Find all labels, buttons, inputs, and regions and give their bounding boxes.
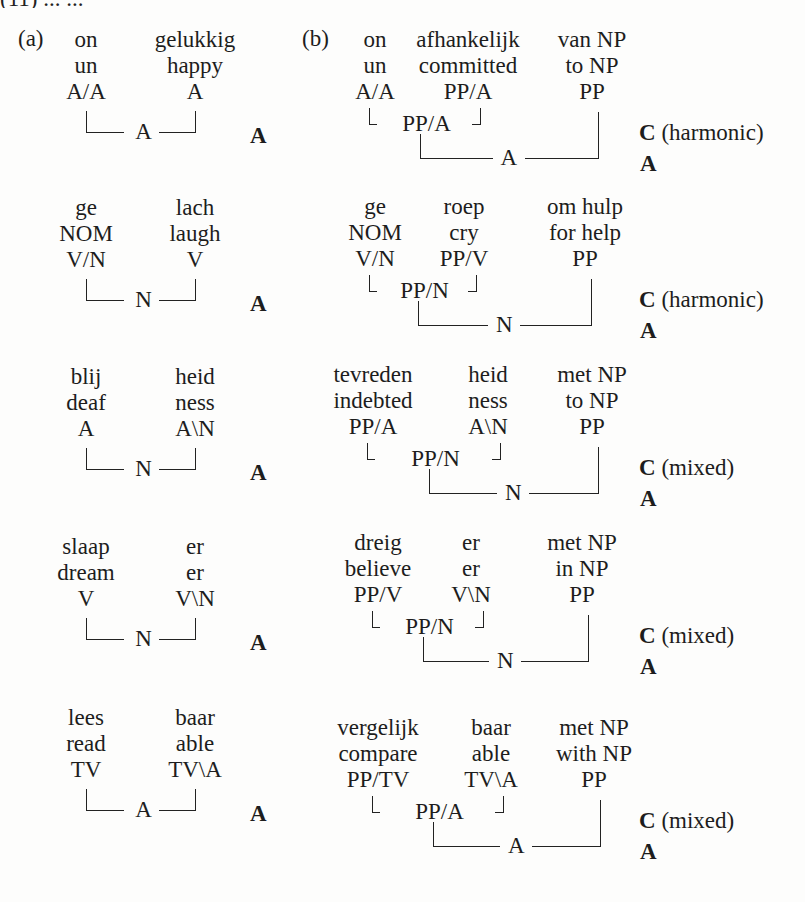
category: PP [572, 247, 598, 270]
bracket-right-vertical [195, 111, 196, 133]
result-category: N [135, 627, 152, 650]
bracket-right-vertical [195, 448, 196, 470]
composition-label: C (harmonic) [639, 121, 764, 144]
english-gloss: dream [57, 561, 114, 584]
bracket-right-vertical [195, 618, 196, 640]
composition-kind: (harmonic) [661, 287, 763, 312]
classification-label: A [640, 487, 657, 510]
english-gloss: un [364, 54, 387, 77]
category: V/N [355, 247, 395, 270]
intermediate-category: PP/N [411, 447, 460, 470]
result-category: A [135, 120, 152, 143]
outer-bracket-right-horizontal [529, 493, 598, 494]
bracket-left-vertical [86, 789, 87, 810]
inner-bracket-left-horizontal [369, 291, 377, 292]
outer-bracket-right-horizontal [521, 661, 588, 662]
composition-label: C (mixed) [639, 809, 734, 832]
dutch-morpheme: heid [175, 365, 215, 388]
english-gloss: committed [419, 54, 517, 77]
english-gloss: deaf [66, 391, 106, 414]
inner-bracket-right-horizontal [475, 627, 483, 628]
composition-kind: (mixed) [661, 808, 734, 833]
panel-a-label: (a) [18, 27, 44, 50]
classification-label: A [250, 802, 267, 825]
classification-label: A [640, 655, 657, 678]
english-gloss: NOM [348, 221, 402, 244]
bracket-left-vertical [86, 111, 87, 132]
category: A/A [66, 80, 106, 103]
category: TV [71, 758, 102, 781]
english-gloss: with NP [556, 742, 632, 765]
dutch-morpheme: er [462, 531, 480, 554]
bracket-right-horizontal [159, 810, 195, 811]
outer-bracket-right-horizontal [525, 158, 598, 159]
inner-bracket-left-vertical [367, 443, 368, 459]
inner-bracket-right-vertical [476, 275, 477, 292]
composition-type-letter: C [639, 808, 656, 833]
dutch-morpheme: on [364, 28, 387, 51]
english-gloss: for help [549, 221, 621, 244]
dutch-morpheme: met NP [559, 716, 629, 739]
category: A\N [175, 417, 215, 440]
outer-bracket-left-vertical [418, 301, 419, 325]
outer-bracket-left-vertical [420, 134, 421, 158]
outer-bracket-left-horizontal [433, 846, 501, 847]
outer-bracket-right-horizontal [532, 846, 600, 847]
category: A/A [355, 80, 395, 103]
outer-bracket-left-horizontal [418, 325, 489, 326]
result-category: N [135, 457, 152, 480]
dutch-morpheme: blij [71, 365, 102, 388]
english-gloss: er [186, 561, 204, 584]
category: TV\A [464, 768, 518, 791]
outer-bracket-left-vertical [423, 637, 424, 661]
bracket-right-vertical [195, 789, 196, 811]
dutch-morpheme: slaap [62, 535, 109, 558]
english-gloss: happy [167, 54, 223, 77]
composition-kind: (harmonic) [661, 120, 763, 145]
english-gloss: to NP [565, 54, 618, 77]
category: V\N [175, 587, 215, 610]
composition-label: C (mixed) [639, 624, 734, 647]
category: PP/A [349, 415, 398, 438]
inner-bracket-left-horizontal [372, 812, 380, 813]
clipped-previous-line: (11) ... ... [0, 0, 805, 8]
inner-bracket-left-horizontal [369, 124, 377, 125]
category: PP [569, 583, 595, 606]
bracket-left-horizontal [86, 810, 124, 811]
outer-bracket-left-horizontal [423, 661, 490, 662]
english-gloss: NOM [59, 222, 113, 245]
result-category: A [500, 146, 517, 169]
category: PP/TV [347, 768, 410, 791]
dutch-morpheme: gelukkig [155, 28, 236, 51]
bracket-right-horizontal [159, 132, 195, 133]
outer-bracket-left-vertical [429, 469, 430, 493]
inner-bracket-right-vertical [503, 796, 504, 813]
english-gloss: indebted [333, 389, 412, 412]
bracket-left-horizontal [86, 132, 124, 133]
classification-label: A [250, 631, 267, 654]
classification-label: A [250, 461, 267, 484]
classification-label: A [640, 840, 657, 863]
inner-bracket-right-horizontal [472, 124, 480, 125]
category: TV\A [168, 758, 222, 781]
intermediate-category: PP/A [402, 112, 451, 135]
inner-bracket-right-vertical [483, 611, 484, 628]
bracket-left-horizontal [86, 469, 124, 470]
bracket-left-horizontal [86, 639, 124, 640]
dutch-morpheme: lach [176, 196, 214, 219]
composition-kind: (mixed) [661, 623, 734, 648]
intermediate-category: PP/A [415, 800, 464, 823]
bracket-left-vertical [86, 618, 87, 639]
english-gloss: compare [338, 742, 417, 765]
inner-bracket-left-vertical [372, 796, 373, 812]
composition-type-letter: C [639, 120, 656, 145]
dutch-morpheme: om hulp [547, 195, 623, 218]
dutch-morpheme: on [75, 28, 98, 51]
category: V/N [66, 248, 106, 271]
dutch-morpheme: heid [468, 363, 508, 386]
english-gloss: able [176, 732, 214, 755]
english-gloss: able [472, 742, 510, 765]
category: PP [579, 415, 605, 438]
outer-bracket-right-vertical [600, 800, 601, 847]
english-gloss: in NP [555, 557, 608, 580]
